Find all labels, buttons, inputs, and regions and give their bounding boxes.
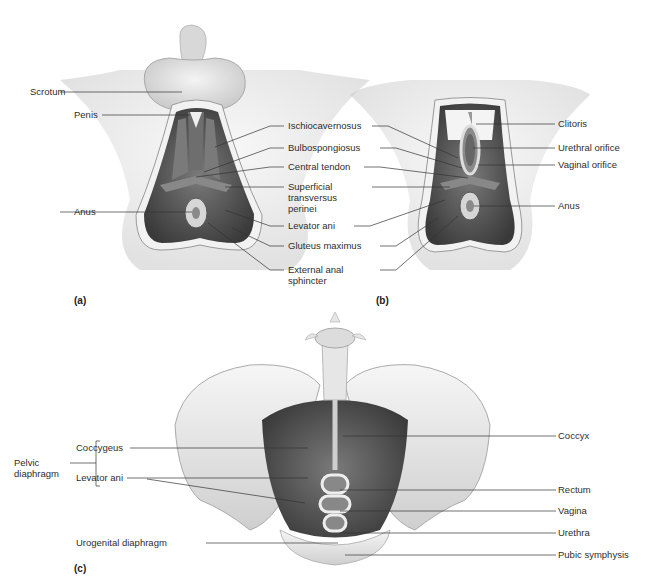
- label-external-anal-sphincter: External anal sphincter: [288, 264, 343, 286]
- pelvic-floor-drawing: [175, 312, 490, 565]
- label-clitoris: Clitoris: [558, 118, 587, 129]
- label-coccygeus: Coccygeus: [76, 442, 123, 453]
- panel-tag-a: (a): [74, 295, 86, 306]
- label-anus-female: Anus: [558, 200, 580, 211]
- panel-tag-c: (c): [74, 563, 86, 574]
- label-superficial-transversus-perinei: Superficial transversus perinei: [288, 181, 337, 214]
- label-coccyx: Coccyx: [558, 430, 589, 441]
- label-anus-male: Anus: [74, 206, 96, 217]
- label-rectum: Rectum: [558, 484, 591, 495]
- female-perineum-drawing: [350, 80, 590, 270]
- label-vagina: Vagina: [558, 505, 587, 516]
- label-ischiocavernosus: Ischiocavernosus: [288, 120, 361, 131]
- label-pubic-symphysis: Pubic symphysis: [558, 549, 629, 560]
- label-penis: Penis: [74, 109, 98, 120]
- panel-tag-b: (b): [376, 295, 389, 306]
- label-levator-ani-perineum: Levator ani: [288, 220, 335, 231]
- label-central-tendon: Central tendon: [288, 161, 350, 172]
- label-gluteus-maximus: Gluteus maximus: [288, 240, 361, 251]
- label-vaginal-orifice: Vaginal orifice: [558, 159, 617, 170]
- label-pelvic-diaphragm: Pelvic diaphragm: [14, 457, 59, 479]
- label-bulbospongiosus: Bulbospongiosus: [288, 142, 360, 153]
- anatomy-illustration: [0, 0, 648, 585]
- label-levator-ani-pelvis: Levator ani: [76, 472, 123, 483]
- label-scrotum: Scrotum: [30, 86, 65, 97]
- label-urethra: Urethra: [558, 527, 590, 538]
- label-urethral-orifice: Urethral orifice: [558, 142, 620, 153]
- label-urogenital-diaphragm: Urogenital diaphragm: [76, 537, 167, 548]
